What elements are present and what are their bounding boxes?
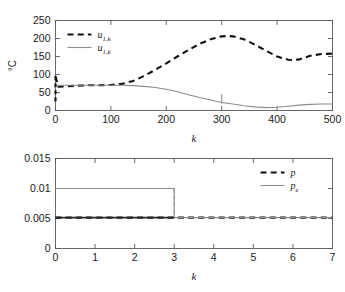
series-line-1 (56, 85, 333, 107)
x-tick-label: 500 (324, 113, 342, 125)
x-tick-label: 200 (158, 113, 176, 125)
x-tick-label: 300 (213, 113, 231, 125)
y-tick-label: 0.01 (30, 182, 51, 194)
x-tick-label: 3 (171, 251, 177, 263)
x-axis-label: k (192, 132, 198, 144)
x-tick-label: 6 (290, 251, 296, 263)
x-tick-label: 400 (268, 113, 286, 125)
legend-label-0: p (290, 167, 296, 178)
y-tick-label: 150 (33, 50, 51, 62)
legend-label-0: u1,k (98, 29, 112, 42)
x-tick-label: 0 (53, 251, 59, 263)
legend-label-1: u1,k (98, 42, 112, 55)
legend-top: u1,ku1,k (68, 29, 112, 55)
x-tick-label: 5 (250, 251, 256, 263)
y-tick-label: 0.005 (24, 212, 50, 224)
y-tick-label: 100 (33, 68, 51, 80)
y-tick-label: 50 (39, 86, 51, 98)
x-tick-label: 7 (330, 251, 336, 263)
x-tick-label: 100 (102, 113, 120, 125)
x-tick-label: 4 (211, 251, 217, 263)
panel-bottom: 0123456700.0050.010.015kppe (24, 152, 335, 281)
legend-bottom: ppe (261, 167, 299, 193)
chart-canvas: 0100200300400500050100150200250k°Cu1,ku1… (0, 0, 345, 292)
panel-top: 0100200300400500050100150200250k°Cu1,ku1… (7, 14, 341, 143)
x-tick-label: 2 (132, 251, 138, 263)
x-tick-label: 1 (92, 251, 98, 263)
x-tick-label: 0 (53, 113, 59, 125)
y-axis-label: °C (7, 60, 18, 71)
x-axis-label: k (192, 270, 198, 282)
figure-container: 0100200300400500050100150200250k°Cu1,ku1… (0, 0, 345, 292)
y-tick-label: 0.015 (24, 152, 50, 164)
legend-label-1: pe (290, 180, 299, 193)
y-tick-label: 0 (45, 104, 51, 116)
y-tick-label: 0 (45, 242, 51, 254)
y-tick-label: 200 (33, 32, 51, 44)
y-tick-label: 250 (33, 14, 51, 26)
series-line-1 (56, 189, 333, 218)
